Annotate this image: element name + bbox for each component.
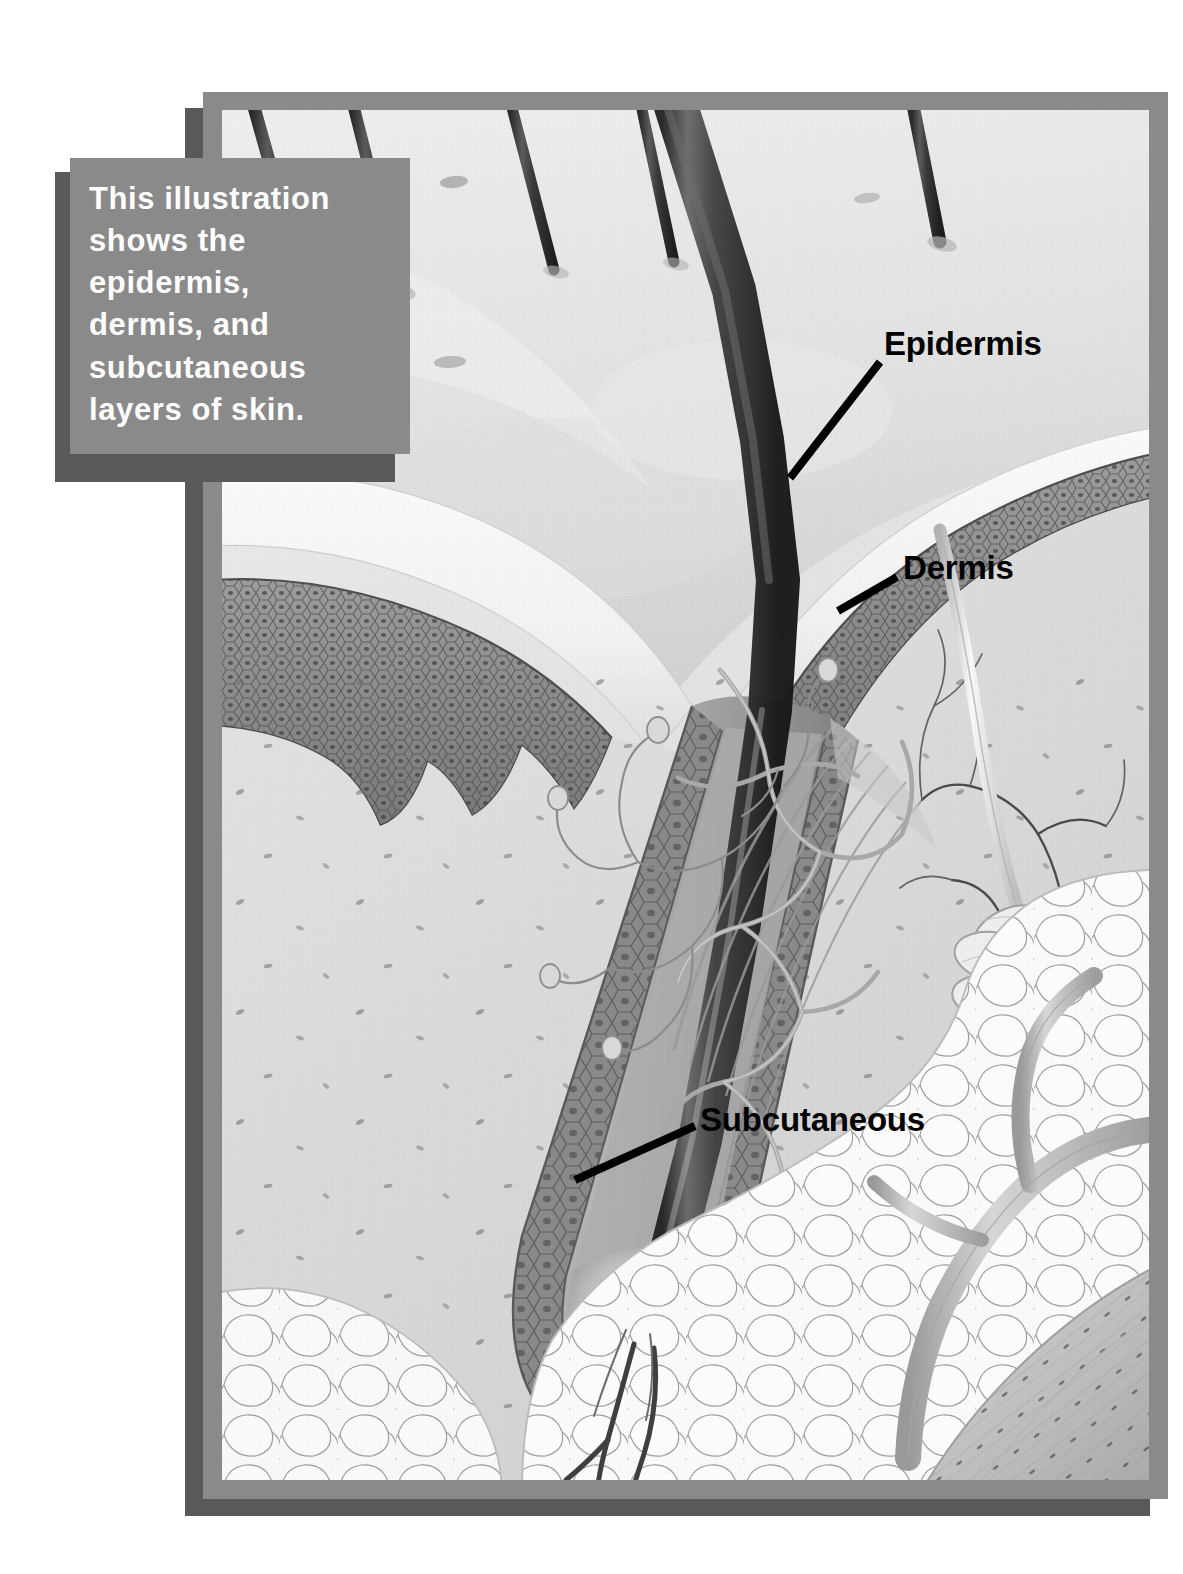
caption-card: This illustration shows the epidermis, d… — [70, 158, 410, 454]
caption-text: This illustration shows the epidermis, d… — [89, 178, 394, 431]
label-epidermis: Epidermis — [884, 325, 1042, 363]
label-subcutaneous: Subcutaneous — [700, 1101, 925, 1139]
label-dermis: Dermis — [903, 549, 1014, 587]
